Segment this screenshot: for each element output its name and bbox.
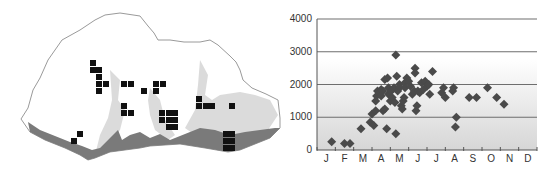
y-tick-label: 1000 [282,111,312,122]
x-tick-label: N [503,153,517,164]
grid-square [229,131,235,137]
grid-square [153,88,159,94]
grid-square [159,110,165,116]
grid-square [229,138,235,144]
grid-square [159,117,165,123]
x-tick-label: F [338,153,352,164]
grid-square [196,96,202,102]
y-tick-label: 2000 [282,79,312,90]
grid-square [153,81,159,87]
grid-square [160,81,166,87]
x-tick-label: O [484,153,498,164]
grid-square [203,103,209,109]
grid-square [121,103,127,109]
grid-square [103,81,109,87]
chart-svg [290,0,556,170]
grid-square [96,88,102,94]
grid-square [166,124,172,130]
grid-square [166,117,172,123]
grid-square [229,145,235,151]
x-tick-label: A [448,153,462,164]
grid-square [223,145,229,151]
map-svg [0,0,290,170]
grid-square [128,81,134,87]
grid-square [223,131,229,137]
x-tick-label: J [319,153,333,164]
grid-square [223,138,229,144]
x-tick-label: A [374,153,388,164]
x-tick-label: M [356,153,370,164]
x-tick-label: D [521,153,535,164]
x-tick-label: M [393,153,407,164]
grid-square [121,81,127,87]
grid-square [96,81,102,87]
grid-square [128,110,134,116]
grid-square [90,60,96,66]
y-tick-label: 3000 [282,46,312,57]
grid-square [121,110,127,116]
grid-square [96,67,102,73]
grid-square [166,110,172,116]
x-tick-label: S [466,153,480,164]
x-tick-label: J [411,153,425,164]
grid-square [90,67,96,73]
grid-square [209,103,215,109]
grid-square [172,110,178,116]
grid-square [172,124,178,130]
elevation-month-chart: 01000200030004000 JFMAMJJASOND [290,0,556,170]
grid-square [196,103,202,109]
grid-square [71,138,77,144]
distribution-map [0,0,290,170]
x-tick-label: J [429,153,443,164]
grid-square [141,88,147,94]
grid-square [172,117,178,123]
grid-square [96,74,102,80]
y-tick-label: 0 [282,144,312,155]
grid-square [229,103,235,109]
y-tick-label: 4000 [282,13,312,24]
grid-square [77,131,83,137]
